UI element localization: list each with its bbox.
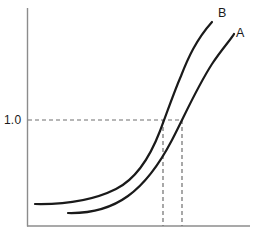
curve-label-a: A [236,26,244,40]
curve-a-path [68,34,234,213]
dose-response-chart: 1.0 B A [0,0,260,236]
y-axis-tick-label-1: 1.0 [4,113,21,127]
curve-label-b: B [218,6,226,20]
plot-area [0,0,260,236]
